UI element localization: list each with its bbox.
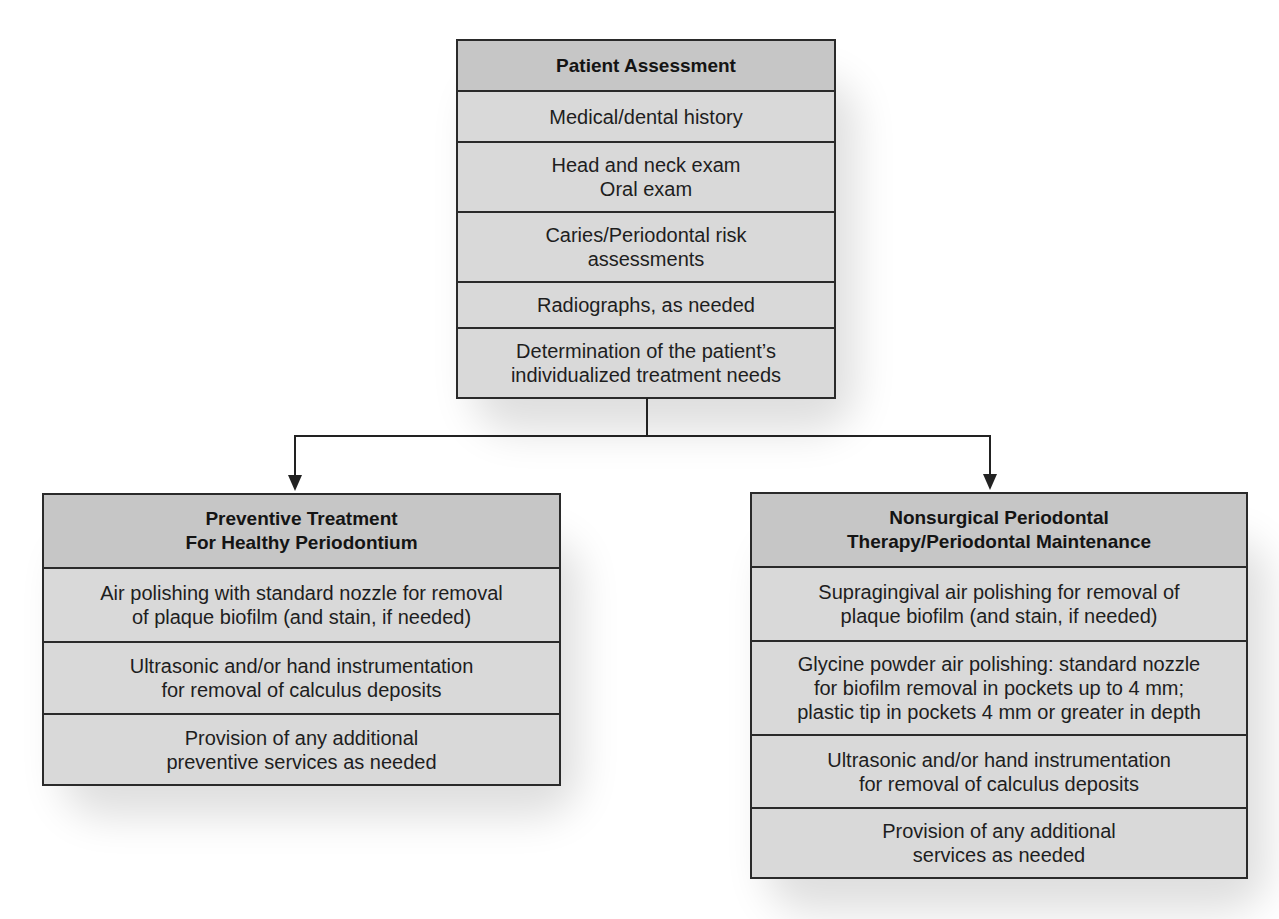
patient-assessment-box: Patient Assessment Medical/dental histor…: [456, 39, 836, 399]
connector-horizontal-bar: [294, 435, 991, 437]
patient-assessment-title: Patient Assessment: [458, 41, 834, 90]
therapy-step-additional-services: Provision of any additional services as …: [752, 807, 1246, 877]
assessment-step-risk-assessments: Caries/Periodontal risk assessments: [458, 211, 834, 281]
nonsurgical-therapy-title: Nonsurgical Periodontal Therapy/Periodon…: [752, 494, 1246, 566]
therapy-step-glycine-polishing: Glycine powder air polishing: standard n…: [752, 640, 1246, 734]
nonsurgical-therapy-box: Nonsurgical Periodontal Therapy/Periodon…: [750, 492, 1248, 879]
connector-right-drop: [989, 435, 991, 478]
therapy-step-instrumentation: Ultrasonic and/or hand instrumentation f…: [752, 734, 1246, 807]
assessment-step-exams: Head and neck exam Oral exam: [458, 141, 834, 211]
connector-vertical-trunk: [646, 398, 648, 437]
preventive-treatment-title: Preventive Treatment For Healthy Periodo…: [44, 495, 559, 567]
assessment-step-treatment-needs: Determination of the patient’s individua…: [458, 327, 834, 397]
therapy-step-supragingival-polishing: Supragingival air polishing for removal …: [752, 566, 1246, 640]
arrow-down-icon-left: [288, 475, 302, 491]
assessment-step-radiographs: Radiographs, as needed: [458, 281, 834, 327]
connector-left-drop: [294, 435, 296, 479]
preventive-treatment-box: Preventive Treatment For Healthy Periodo…: [42, 493, 561, 786]
preventive-step-instrumentation: Ultrasonic and/or hand instrumentation f…: [44, 641, 559, 713]
arrow-down-icon-right: [983, 474, 997, 490]
assessment-step-medical-history: Medical/dental history: [458, 90, 834, 141]
preventive-step-air-polishing: Air polishing with standard nozzle for r…: [44, 567, 559, 641]
preventive-step-additional-services: Provision of any additional preventive s…: [44, 713, 559, 784]
